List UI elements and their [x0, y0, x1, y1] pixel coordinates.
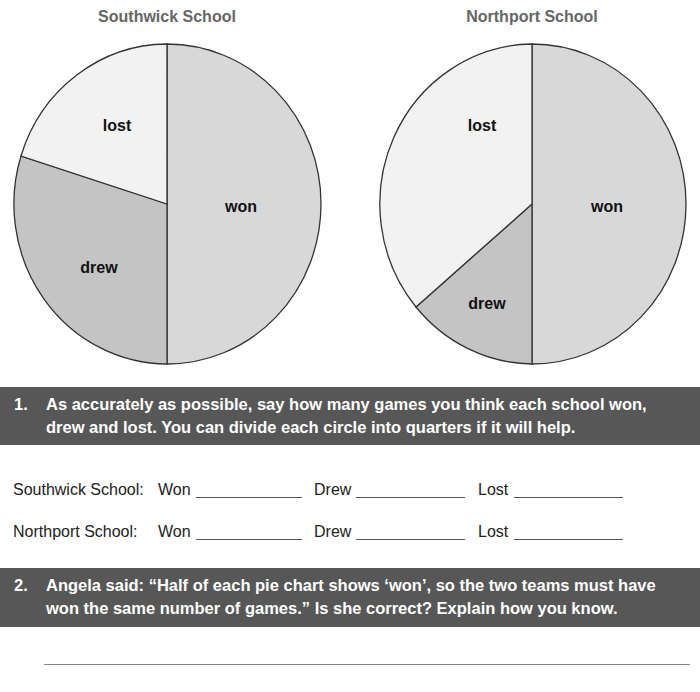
southwick-lost-blank[interactable] — [514, 497, 623, 498]
southwick-label-lost: lost — [103, 117, 132, 134]
northport-row-label: Northport School: — [13, 523, 138, 541]
southwick-won-blank[interactable] — [196, 497, 302, 498]
question-1-banner: 1. As accurately as possible, say how ma… — [0, 387, 700, 445]
question-2-banner: 2. Angela said: “Half of each pie chart … — [0, 568, 700, 627]
southwick-label-won: won — [224, 198, 257, 215]
southwick-won-label: Won — [158, 481, 191, 499]
pie-charts: lost won drew lost won drew — [0, 0, 700, 380]
question-2-answer-line[interactable] — [44, 664, 690, 665]
northport-won-label: Won — [158, 523, 191, 541]
question-1-number: 1. — [14, 393, 28, 416]
northport-label-drew: drew — [468, 295, 506, 312]
question-2-text: Angela said: “Half of each pie chart sho… — [46, 574, 686, 620]
northport-label-won: won — [590, 198, 623, 215]
northport-pie: lost won drew — [380, 44, 686, 364]
northport-lost-label: Lost — [478, 523, 508, 541]
southwick-pie: lost won drew — [14, 44, 321, 364]
southwick-drew-label: Drew — [314, 481, 351, 499]
northport-won-blank[interactable] — [196, 539, 302, 540]
southwick-drew-blank[interactable] — [356, 497, 465, 498]
southwick-lost-label: Lost — [478, 481, 508, 499]
northport-lost-blank[interactable] — [514, 539, 623, 540]
southwick-label-drew: drew — [80, 259, 118, 276]
northport-drew-blank[interactable] — [356, 539, 465, 540]
question-1-text: As accurately as possible, say how many … — [46, 393, 686, 439]
southwick-row-label: Southwick School: — [13, 481, 144, 499]
northport-drew-label: Drew — [314, 523, 351, 541]
northport-label-lost: lost — [468, 117, 497, 134]
question-2-number: 2. — [14, 574, 28, 597]
